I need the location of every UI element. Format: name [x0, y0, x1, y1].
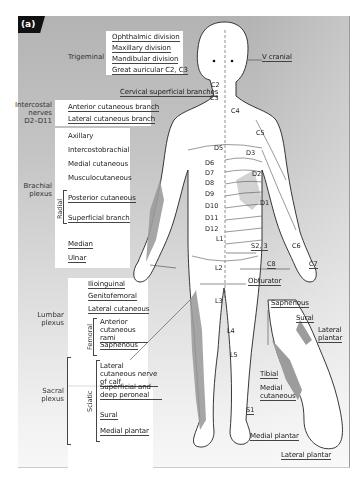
- sacral-line-1: Sacral: [22, 387, 64, 395]
- dermatome-l1: L1: [216, 236, 224, 243]
- label-medial-plantar: Medial plantar: [100, 427, 149, 436]
- brachial-line-2: plexus: [14, 190, 52, 198]
- inset-label-medial-cutaneous: Medial cutaneous: [260, 384, 296, 401]
- inset-medial-line-1: Medial: [260, 384, 296, 392]
- dermatome-c4: C4: [231, 108, 240, 115]
- inset-label-lateral-plantar-bottom: Lateral plantar: [281, 451, 331, 460]
- inset-lateral-line-1: Lateral: [318, 326, 342, 334]
- dermatome-d6: D6: [205, 160, 214, 167]
- dermatome-d9: D9: [205, 191, 214, 198]
- dermatome-l5: L5: [230, 352, 238, 359]
- label-medial-cutaneous: Medial cutaneous: [68, 160, 128, 168]
- label-great-auricular: Great auricular C2, C3: [112, 66, 188, 75]
- sacral-bracket: [67, 357, 71, 445]
- label-intercostobrachial: Intercostobrachial: [68, 146, 129, 154]
- brachial-group-label: Brachial plexus: [14, 182, 52, 198]
- label-axillary: Axillary: [68, 132, 93, 140]
- radial-label: Radial: [56, 199, 64, 219]
- inset-label-tibial: Tibial: [260, 370, 278, 379]
- dermatome-d12: D12: [205, 226, 218, 233]
- brachial-line-1: Brachial: [14, 182, 52, 190]
- dermatome-s1: S1: [246, 407, 254, 415]
- inset-lateral-line-2: plantar: [318, 334, 342, 342]
- dermatome-c6: C6: [292, 243, 301, 250]
- label-lateral-cutaneous: Lateral cutaneous: [88, 305, 149, 314]
- label-musculocutaneous: Musculocutaneous: [68, 174, 131, 182]
- dermatome-l2: L2: [215, 265, 223, 272]
- lumbar-line-1: Lumbar: [22, 311, 64, 319]
- label-anterior-cutaneous-rami: Anterior cutaneous rami: [100, 318, 148, 343]
- sacral-line-2: plexus: [22, 395, 64, 403]
- label-superficial-branch: Superficial branch: [68, 214, 130, 223]
- dermatome-l4: L4: [227, 328, 235, 335]
- sacral-group-label: Sacral plexus: [22, 387, 64, 403]
- inset-medial-line-2: cutaneous: [260, 392, 296, 400]
- lumbar-group-label: Lumbar plexus: [22, 311, 64, 327]
- trigeminal-group-label: Trigeminal: [68, 53, 104, 61]
- intercostal-line-3: D2–D11: [14, 117, 52, 125]
- label-maxillary: Maxillary division: [112, 44, 171, 53]
- label-v-cranial: V cranial: [262, 53, 292, 62]
- dermatome-d5: D5: [214, 145, 223, 152]
- dermatome-d8: D8: [205, 180, 214, 187]
- dermatome-d1: D1: [260, 200, 269, 207]
- label-genitofemoral: Genitofemoral: [88, 292, 137, 301]
- label-cervical-superficial: Cervical superficial branches: [120, 88, 218, 97]
- intercostal-line-2: nerves: [14, 109, 52, 117]
- dermatome-d2: D2: [252, 171, 261, 178]
- label-saphenous: Saphenous: [100, 341, 138, 350]
- label-ulnar: Ulnar: [68, 254, 86, 263]
- label-posterior-cutaneous: Posterior cutaneous: [68, 194, 136, 203]
- label-anterior-cutaneous-branch: Anterior cutaneous branch: [68, 103, 159, 112]
- dermatome-d7: D7: [205, 170, 214, 177]
- dermatome-d3: D3: [246, 150, 255, 157]
- label-median: Median: [68, 240, 93, 249]
- label-ophthalmic: Ophthalmic division: [112, 33, 180, 42]
- dermatome-c5: C5: [256, 130, 265, 137]
- dermatome-d10: D10: [205, 203, 218, 210]
- inset-label-saphenous: Saphenous: [271, 299, 309, 308]
- dermatome-c8: C8: [267, 261, 276, 269]
- inset-label-sural: Sural: [296, 314, 314, 323]
- label-ilioinguinal: Ilioinguinal: [88, 280, 125, 289]
- dermatome-c7: C7: [309, 261, 318, 269]
- sciatic-label: Sciatic: [86, 391, 94, 412]
- dermatome-d11: D11: [205, 215, 218, 222]
- inset-label-medial-plantar: Medial plantar: [250, 432, 299, 441]
- dermatome-l3: L3: [215, 298, 223, 305]
- label-obturator: Obturator: [248, 277, 281, 286]
- dermatome-c2: C2: [211, 82, 220, 89]
- intercostal-group-label: Intercostal nerves D2–D11: [14, 101, 52, 125]
- dermatome-c3: C3: [210, 95, 219, 102]
- label-superficial-deep-peroneal: Superficial and deep peroneal: [100, 383, 162, 400]
- label-mandibular: Mandibular division: [112, 55, 178, 64]
- label-sural: Sural: [100, 411, 118, 420]
- inset-label-lateral-plantar-top: Lateral plantar: [318, 326, 342, 343]
- lumbar-line-2: plexus: [22, 319, 64, 327]
- label-lateral-cutaneous-branch: Lateral cutaneous branch: [68, 115, 155, 124]
- femoral-label: Femoral: [86, 324, 94, 350]
- dermatome-s23: S2, 3: [251, 243, 268, 251]
- intercostal-line-1: Intercostal: [14, 101, 52, 109]
